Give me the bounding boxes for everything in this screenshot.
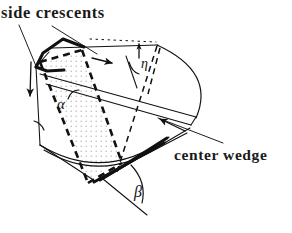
right-closing-edge [191, 117, 196, 125]
end-cap-arc [157, 45, 201, 118]
arrow-left-down [30, 62, 31, 96]
upper-long-edge [52, 45, 158, 48]
angle-label-alpha: α [57, 97, 65, 112]
label-center-wedge: center wedge [174, 147, 267, 163]
angle-label-beta: β [134, 184, 142, 200]
arrow-center-wedge [160, 119, 185, 131]
left-edge [36, 67, 40, 145]
leader-side-crescents-a [19, 25, 36, 66]
leader-lines [19, 25, 223, 143]
label-side-crescents: side crescents [1, 5, 105, 22]
eta-dotted-horizontal [90, 39, 156, 42]
leader-side-crescents-b [52, 26, 97, 54]
arrow-top-edge [92, 58, 112, 63]
angle-label-eta: η [141, 57, 148, 71]
diagram-canvas [0, 0, 292, 233]
figure-root: side crescents center wedge α β η [0, 0, 292, 233]
